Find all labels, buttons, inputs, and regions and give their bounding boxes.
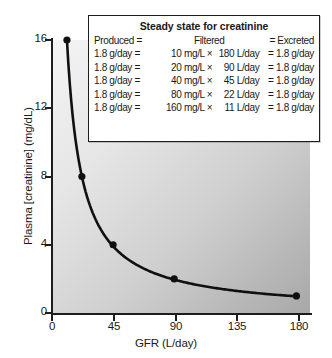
creatinine-gfr-figure: 16 12 8 4 0 0 45 90 135 180 GFR (L/day) … — [0, 0, 332, 358]
table-row: 1.8 g/day =40 mg/L×45 L/day= 1.8 g/day — [94, 75, 314, 89]
row-filtered-conc: 20 mg/L — [159, 61, 205, 75]
row-filtered-conc: 80 mg/L — [159, 88, 205, 102]
row-produced: 1.8 g/day = — [94, 75, 159, 89]
row-excreted: = 1.8 g/day — [259, 61, 314, 75]
row-gfr-flow: 180 L/day — [214, 48, 259, 62]
row-times-symbol: × — [205, 75, 214, 89]
header-excreted: = Excreted — [259, 34, 314, 48]
data-point — [110, 241, 117, 248]
steady-state-table: Produced = Filtered = Excreted 1.8 g/day… — [94, 34, 314, 116]
header-filtered: Filtered — [159, 34, 259, 48]
data-point — [171, 275, 178, 282]
row-gfr-flow: 90 L/day — [214, 61, 259, 75]
data-point — [78, 173, 85, 180]
row-times-symbol: × — [205, 88, 214, 102]
steady-state-table-box: Steady state for creatinine Produced = F… — [88, 15, 320, 142]
row-produced: 1.8 g/day = — [94, 88, 159, 102]
row-filtered-conc: 40 mg/L — [159, 75, 205, 89]
row-times-symbol: × — [205, 61, 214, 75]
row-gfr-flow: 45 L/day — [214, 75, 259, 89]
data-point — [293, 292, 300, 299]
row-produced: 1.8 g/day = — [94, 102, 159, 116]
data-point — [63, 36, 70, 43]
row-excreted: = 1.8 g/day — [259, 88, 314, 102]
row-times-symbol: × — [205, 102, 214, 116]
row-filtered-conc: 160 mg/L — [159, 102, 205, 116]
header-produced: Produced = — [94, 34, 159, 48]
table-row: 1.8 g/day =20 mg/L×90 L/day= 1.8 g/day — [94, 61, 314, 75]
row-produced: 1.8 g/day = — [94, 48, 159, 62]
table-row: 1.8 g/day =160 mg/L×11 L/day= 1.8 g/day — [94, 102, 314, 116]
row-excreted: = 1.8 g/day — [259, 102, 314, 116]
row-excreted: = 1.8 g/day — [259, 48, 314, 62]
row-gfr-flow: 22 L/day — [214, 88, 259, 102]
row-times-symbol: × — [205, 48, 214, 62]
table-row: 1.8 g/day =80 mg/L×22 L/day= 1.8 g/day — [94, 88, 314, 102]
row-excreted: = 1.8 g/day — [259, 75, 314, 89]
table-body: 1.8 g/day =10 mg/L×180 L/day= 1.8 g/day1… — [94, 48, 314, 116]
row-filtered-conc: 10 mg/L — [159, 48, 205, 62]
table-title: Steady state for creatinine — [94, 20, 314, 32]
table-header-row: Produced = Filtered = Excreted — [94, 34, 314, 48]
row-gfr-flow: 11 L/day — [214, 102, 259, 116]
table-row: 1.8 g/day =10 mg/L×180 L/day= 1.8 g/day — [94, 48, 314, 62]
row-produced: 1.8 g/day = — [94, 61, 159, 75]
